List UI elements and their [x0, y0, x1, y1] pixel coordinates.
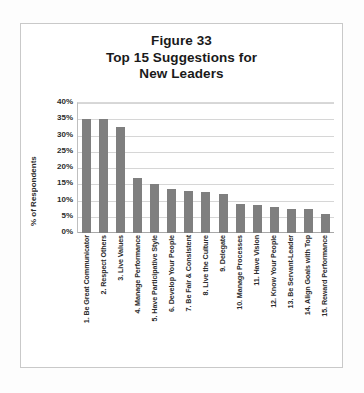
- bar-slot: [78, 103, 95, 233]
- x-label-slot: 9. Delegate: [214, 235, 231, 370]
- y-axis-tick-7: 5%: [61, 212, 73, 220]
- x-axis-label-9: 9. Delegate: [218, 235, 227, 272]
- plot-area: [77, 102, 334, 233]
- x-label-slot: 12. Know Your People: [265, 235, 282, 370]
- bar-slot: [197, 103, 214, 233]
- bar: [287, 209, 296, 233]
- x-label-slot: 7. Be Fair & Consistent: [179, 235, 196, 370]
- x-label-slot: 15. Reward Performance: [316, 235, 333, 370]
- y-axis-tick-0: 40%: [57, 98, 73, 106]
- x-axis-label-12: 12. Know Your People: [269, 235, 278, 308]
- x-axis-label-3: 3. Live Values: [115, 235, 124, 281]
- bar-slot: [317, 103, 334, 233]
- y-axis-title: % of Respondents: [26, 136, 40, 246]
- x-label-slot: 3. Live Values: [111, 235, 128, 370]
- bar: [150, 184, 159, 233]
- x-axis-label-10: 10. Manage Processes: [235, 235, 244, 310]
- bar-series: [78, 103, 334, 233]
- x-axis-label-11: 11. Have Vision: [252, 235, 261, 286]
- x-label-slot: 1. Be Great Communicator: [77, 235, 94, 370]
- x-label-slot: 11. Have Vision: [248, 235, 265, 370]
- x-axis-label-7: 7. Be Fair & Consistent: [183, 235, 192, 311]
- bar: [82, 119, 91, 233]
- x-axis-label-13: 13. Be Servant-Leader: [286, 235, 295, 308]
- y-axis-tick-labels: 40%35%30%25%20%15%10%5%0%: [39, 102, 75, 232]
- bar-slot: [163, 103, 180, 233]
- bar-slot: [232, 103, 249, 233]
- y-axis-tick-5: 15%: [57, 179, 73, 187]
- y-axis-tick-4: 20%: [57, 163, 73, 171]
- x-label-slot: 14. Align Goals with Top: [299, 235, 316, 370]
- bar-slot: [215, 103, 232, 233]
- bar-slot: [129, 103, 146, 233]
- y-axis-tick-3: 25%: [57, 147, 73, 155]
- chart-title-line-0: Figure 33: [21, 33, 342, 50]
- y-axis-tick-2: 30%: [57, 131, 73, 139]
- chart-title-line-2: New Leaders: [21, 66, 342, 83]
- x-axis-label-15: 15. Reward Performance: [320, 235, 329, 317]
- bar-slot: [112, 103, 129, 233]
- x-label-slot: 4. Manage Performance: [128, 235, 145, 370]
- bar: [116, 127, 125, 233]
- x-axis-label-8: 8. Live the Culture: [200, 235, 209, 295]
- x-axis-label-4: 4. Manage Performance: [132, 235, 141, 314]
- bar: [236, 204, 245, 233]
- x-label-slot: 2. Respect Others: [94, 235, 111, 370]
- x-label-slot: 10. Manage Processes: [231, 235, 248, 370]
- bar: [99, 119, 108, 233]
- x-axis-category-labels: 1. Be Great Communicator2. Respect Other…: [77, 235, 333, 370]
- bar: [184, 191, 193, 233]
- y-axis-tick-1: 35%: [57, 114, 73, 122]
- bar: [270, 207, 279, 233]
- bar-slot: [300, 103, 317, 233]
- bar: [201, 192, 210, 233]
- y-axis-tick-6: 10%: [57, 196, 73, 204]
- x-label-slot: 5. Have Participative Style: [145, 235, 162, 370]
- figure-frame: Figure 33 Top 15 Suggestions for New Lea…: [20, 23, 343, 368]
- x-axis-label-14: 14. Align Goals with Top: [303, 235, 312, 315]
- chart-title-line-1b: Top 15 Suggestions for: [21, 50, 342, 67]
- x-label-slot: 13. Be Servant-Leader: [282, 235, 299, 370]
- x-axis-label-5: 5. Have Participative Style: [149, 235, 158, 321]
- y-axis-tick-8: 0%: [61, 228, 73, 236]
- bar-slot: [283, 103, 300, 233]
- bar: [167, 189, 176, 233]
- bar: [321, 214, 330, 234]
- bar: [219, 194, 228, 233]
- x-label-slot: 8. Live the Culture: [196, 235, 213, 370]
- bar: [304, 209, 313, 233]
- chart-title: Figure 33 Top 15 Suggestions for New Lea…: [21, 33, 342, 83]
- bar: [253, 205, 262, 233]
- bar-slot: [95, 103, 112, 233]
- bar-slot: [249, 103, 266, 233]
- x-axis-label-6: 6. Develop Your People: [166, 235, 175, 312]
- bar-slot: [180, 103, 197, 233]
- bar-slot: [266, 103, 283, 233]
- bar: [133, 178, 142, 233]
- x-axis-label-1: 1. Be Great Communicator: [81, 235, 90, 323]
- bar-slot: [146, 103, 163, 233]
- x-axis-label-2: 2. Respect Others: [98, 235, 107, 294]
- x-label-slot: 6. Develop Your People: [162, 235, 179, 370]
